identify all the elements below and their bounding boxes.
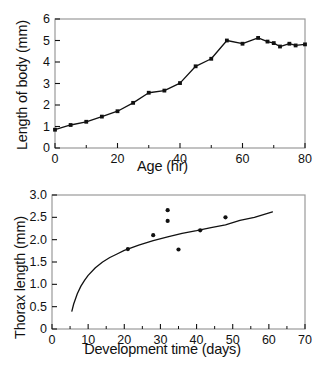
x-axis-tick-label: 20 [117, 333, 131, 347]
data-point-marker [256, 36, 260, 40]
x-axis-tick-label: 70 [298, 333, 312, 347]
y-axis-tick-label: 0 [15, 141, 50, 155]
x-axis-tick-label: 60 [236, 152, 250, 166]
y-axis-tick-label: 6 [15, 12, 50, 26]
y-axis-tick-label: 2.5 [12, 210, 47, 224]
data-point-marker [287, 42, 291, 46]
data-point-marker [147, 91, 151, 95]
data-point-marker [166, 208, 170, 212]
data-point-marker [116, 109, 120, 113]
x-axis-tick-label: 50 [226, 333, 240, 347]
data-point-marker [209, 57, 213, 61]
chart-panel-thorax-length: Development time (days) Thorax length (m… [0, 181, 325, 369]
data-point-marker [84, 120, 88, 124]
data-point-marker [223, 215, 227, 219]
data-point-marker [178, 81, 182, 85]
y-axis-tick-label: 3.0 [12, 188, 47, 202]
y-axis-tick-label: 2.0 [12, 233, 47, 247]
x-axis-tick-label: 60 [262, 333, 276, 347]
data-point-marker [294, 44, 298, 48]
data-point-marker [162, 89, 166, 93]
data-point-marker [166, 219, 170, 223]
x-axis-title-age: Age (hr) [0, 158, 325, 174]
y-axis-tick-label: 1.5 [12, 255, 47, 269]
y-axis-tick-label: 3 [15, 77, 50, 91]
data-point-marker [53, 128, 57, 132]
data-point-marker [272, 41, 276, 45]
chart-panel-body-length: Age (hr) Length of body (mm) 02040608001… [0, 0, 325, 185]
x-axis-tick-label: 40 [173, 152, 187, 166]
data-point-marker [176, 247, 180, 251]
x-axis-tick-label: 80 [298, 152, 312, 166]
y-axis-tick-label: 1.0 [12, 277, 47, 291]
data-point-marker [151, 233, 155, 237]
y-axis-tick-label: 2 [15, 98, 50, 112]
x-axis-tick-label: 0 [52, 152, 59, 166]
x-axis-tick-label: 0 [49, 333, 56, 347]
y-axis-tick-label: 0 [12, 322, 47, 336]
data-series-line [72, 212, 273, 311]
plot-frame [52, 195, 305, 329]
y-axis-tick-label: 4 [15, 55, 50, 69]
data-point-marker [303, 42, 307, 46]
data-point-marker [266, 40, 270, 44]
data-point-marker [194, 64, 198, 68]
data-point-marker [278, 45, 282, 49]
data-point-marker [225, 39, 229, 43]
data-point-marker [241, 42, 245, 46]
x-axis-tick-label: 10 [81, 333, 95, 347]
x-axis-tick-label: 20 [111, 152, 125, 166]
x-axis-tick-label: 40 [190, 333, 204, 347]
data-point-marker [69, 123, 73, 127]
y-axis-tick-label: 1 [15, 120, 50, 134]
x-axis-tick-label: 30 [153, 333, 167, 347]
data-point-marker [131, 101, 135, 105]
y-axis-tick-label: 0.5 [12, 300, 47, 314]
data-point-marker [100, 115, 104, 119]
y-axis-tick-label: 5 [15, 34, 50, 48]
